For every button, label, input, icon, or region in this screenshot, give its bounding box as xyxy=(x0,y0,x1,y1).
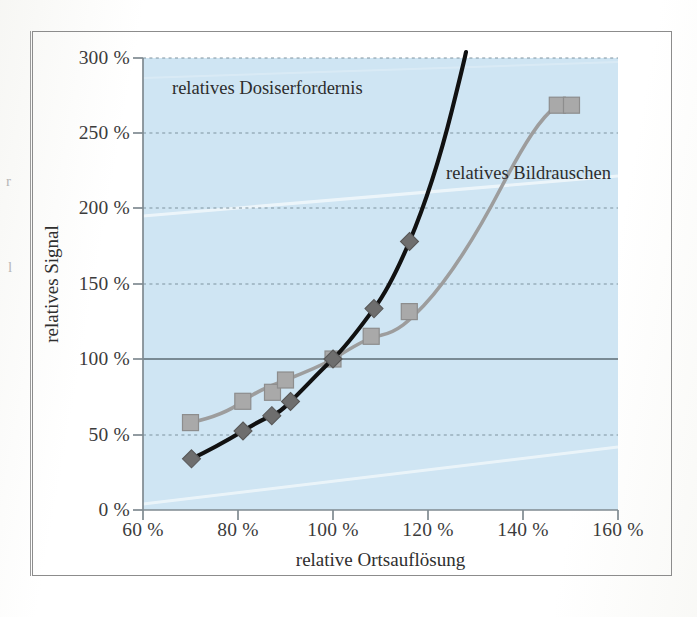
y-axis-title: relatives Signal xyxy=(41,225,63,343)
series-label-bildrauschen: relatives Bildrauschen xyxy=(446,163,611,184)
x-tick-100: 100 % xyxy=(307,519,358,541)
x-tick-120: 120 % xyxy=(402,519,453,541)
figure-page: r l xyxy=(0,0,697,617)
x-tick-80: 80 % xyxy=(217,519,258,541)
series-label-dosiserfordernis: relatives Dosiserfordernis xyxy=(172,78,363,99)
x-tick-60: 60 % xyxy=(122,519,163,541)
x-tick-160: 160 % xyxy=(592,519,643,541)
x-axis-title: relative Ortsauflösung xyxy=(143,549,618,571)
x-tick-140: 140 % xyxy=(497,519,548,541)
